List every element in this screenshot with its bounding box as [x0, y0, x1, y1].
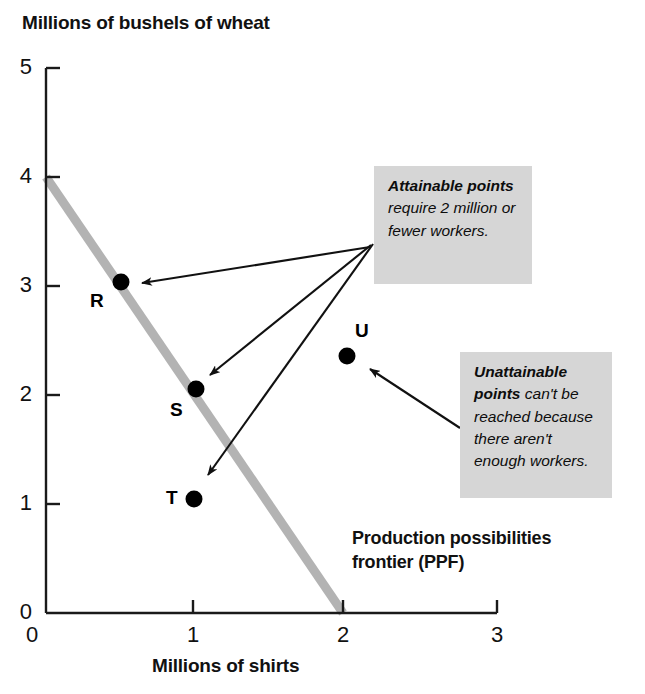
y-tick-label-1: 1 [8, 490, 32, 516]
y-axis-ticks [46, 68, 60, 504]
point-label-s: S [170, 399, 183, 421]
attainable-arrows [142, 244, 373, 475]
x-axis-title: Millions of shirts [152, 655, 299, 677]
point-label-t: T [166, 487, 178, 509]
y-tick-label-3: 3 [8, 272, 32, 298]
arrow-to-point-r [142, 247, 370, 283]
chart-canvas [0, 0, 645, 694]
annotation-unattainable: Unattainable points can't be reached bec… [460, 352, 612, 498]
data-point-s [188, 381, 205, 398]
point-label-r: R [90, 290, 104, 312]
y-tick-label-4: 4 [8, 163, 32, 189]
x-tick-label-3: 3 [482, 622, 512, 648]
annotation-attainable: Attainable points require 2 million or f… [374, 166, 532, 284]
x-tick-label-2: 2 [328, 622, 358, 648]
ppf-caption-line-1: Production possibilities [352, 527, 612, 551]
x-tick-label-1: 1 [178, 622, 208, 648]
data-point-t [186, 491, 203, 508]
ppf-caption-line-2: frontier (PPF) [352, 551, 612, 575]
ppf-chart-figure: Millions of bushels of wheat Millions of… [0, 0, 645, 694]
y-tick-label-2: 2 [8, 381, 32, 407]
data-point-r [113, 274, 130, 291]
point-label-u: U [355, 320, 369, 342]
x-tick-label-0: 0 [17, 622, 47, 648]
ppf-caption: Production possibilities frontier (PPF) [352, 527, 612, 575]
annotation-attainable-lead: Attainable points [388, 177, 514, 194]
data-point-u [339, 348, 356, 365]
y-tick-label-5: 5 [8, 54, 32, 80]
annotation-attainable-text: require 2 million or fewer workers. [388, 199, 516, 238]
arrow-to-point-u [370, 369, 460, 428]
y-axis-title: Millions of bushels of wheat [22, 12, 270, 34]
unattainable-arrows [370, 369, 460, 428]
